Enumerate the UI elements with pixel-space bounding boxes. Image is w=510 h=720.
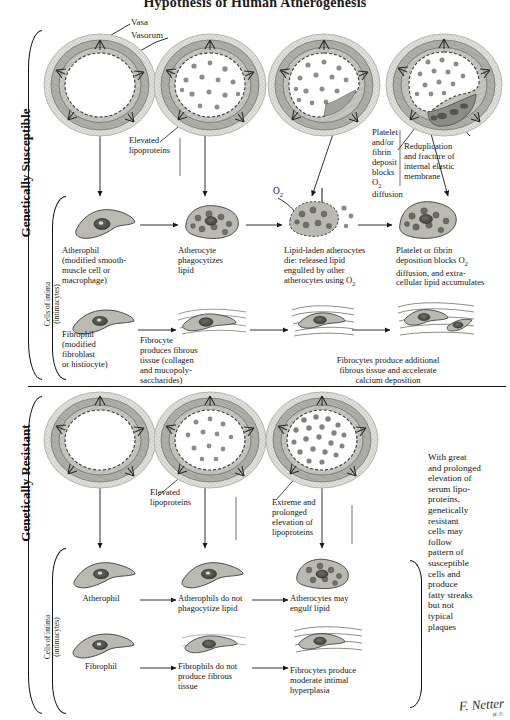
intima-sublabel2-line1: Cells of intima [43, 615, 52, 660]
cell-atherocyte-engulfing [392, 194, 466, 244]
cell-resistant-fibrophil-no-fibrous [180, 626, 248, 658]
cell-atherocyte-phagocytizing [180, 198, 244, 244]
caption-fibrocyte-produces-fibrous: Fibrocyteproduces fibroustissue (collage… [140, 336, 226, 386]
caption-resistant-atherophil: Atherophil [62, 594, 140, 604]
caption-fibrocytes-additional: Fibrocytes produce additionalfibrous tis… [284, 356, 492, 386]
section-brace-resistant [28, 396, 42, 714]
section-divider [28, 386, 506, 387]
caption-resistant-no-phagocytize: Atherophils do notphagocytize lipid [178, 594, 278, 614]
caption-lipid-laden-death: Lipid-laden atherocytesdie: released lip… [284, 246, 400, 288]
vessel-resistant-elevated [152, 390, 268, 490]
caption-atherocyte-phagocytizes: Atherocytephagocytizeslipid [178, 246, 274, 276]
vessel-resistant-normal [42, 390, 158, 490]
cell-resistant-atherophil [72, 556, 138, 592]
label-oxygen-diffusion: O2 [273, 186, 283, 198]
caption-resistant-moderate-hyperplasia: Fibrocytes producemoderate intimalhyperp… [290, 666, 390, 696]
cell-atherophil [72, 200, 138, 244]
caption-resistant-may-engulf: Atherocytes mayengulf lipid [290, 594, 390, 614]
cell-resistant-fibrocyte-hyperplasia [292, 622, 364, 660]
cell-fibrocyte-more-fibrous [290, 300, 356, 340]
cell-resistant-atherocyte-engulf [292, 552, 358, 592]
vessel-elevated-lipoproteins [152, 32, 268, 138]
caption-platelet-fibrin-deposit: Plateletand/orfibrindepositblocks O2diff… [372, 128, 402, 200]
cell-fibrocyte-calcium [396, 298, 476, 340]
vessel-normal [42, 32, 158, 138]
caption-reduplication-fracture: Reduplicationand fracture ofinternal ela… [404, 142, 500, 182]
signature-text: F. Netter [458, 695, 504, 713]
vessel-fatty-streak [266, 32, 382, 138]
caption-atherophil-definition: Atherophil(modified smooth-muscle cell o… [62, 246, 174, 286]
cell-fibrocyte-producing-fibrous [176, 302, 248, 340]
page-title: Hypothesis of Human Atherogenesis [0, 0, 510, 11]
intima-sublabel-line1: Cells of intima [43, 282, 52, 327]
cell-resistant-fibrophil [72, 628, 136, 662]
cell-resistant-atherophil-no-lipid [180, 556, 246, 592]
artist-signature: F. Netter M.D. [458, 695, 505, 719]
diagram-canvas: Hypothesis of Human Atherogenesis [0, 0, 510, 720]
caption-resistant-elevated-lipoproteins: Elevatedlipoproteins [150, 488, 206, 508]
vessel-plaque [384, 32, 504, 138]
caption-elevated-lipoproteins-1: Elevatedlipoproteins [129, 136, 181, 156]
vessel-resistant-extreme [264, 390, 380, 490]
cell-atherocyte-dying [286, 196, 358, 244]
caption-platelet-fibrin-deposition: Platelet or fibrindeposition blocks O2di… [396, 246, 508, 288]
caption-fibrophil-definition: Fibrophil(modifiedfibroblastor histiocyt… [62, 330, 140, 370]
caption-resistant-extreme-elevation: Extreme andprolongedelevation oflipoprot… [272, 498, 336, 538]
note-resistant-outcome: With greatand prolongedelevation ofserum… [428, 452, 504, 632]
section-brace-susceptible [28, 30, 42, 380]
label-vasa: Vasa [131, 17, 148, 28]
caption-resistant-fibrophil: Fibrophil [62, 662, 140, 672]
caption-resistant-no-fibrous-tissue: Fibrophils do notproduce fibroustissue [178, 662, 278, 692]
intima-brace-resistant [52, 548, 66, 714]
intima-brace-resistant-right [410, 560, 422, 708]
